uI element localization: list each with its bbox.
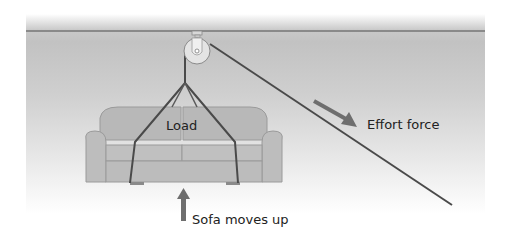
sofa-moves-up-label: Sofa moves up — [192, 212, 289, 227]
pulley-icon — [184, 31, 210, 64]
effort-arrow-icon — [314, 101, 357, 127]
load-label: Load — [166, 118, 197, 133]
effort-force-label: Effort force — [367, 117, 439, 132]
up-arrow-icon — [177, 188, 190, 221]
